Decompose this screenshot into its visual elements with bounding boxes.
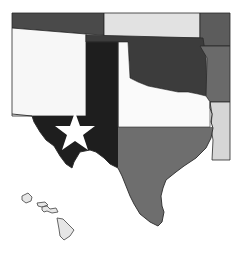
island-molokai-maui bbox=[42, 206, 58, 213]
texas-flag-map bbox=[0, 0, 240, 253]
state-louisiana bbox=[210, 102, 230, 160]
island-kauai bbox=[22, 193, 32, 203]
state-kansas bbox=[104, 13, 200, 38]
state-new-mexico bbox=[12, 28, 86, 116]
island-hawaii bbox=[57, 218, 74, 240]
state-missouri bbox=[200, 13, 230, 46]
hawaii-islands bbox=[22, 193, 74, 240]
